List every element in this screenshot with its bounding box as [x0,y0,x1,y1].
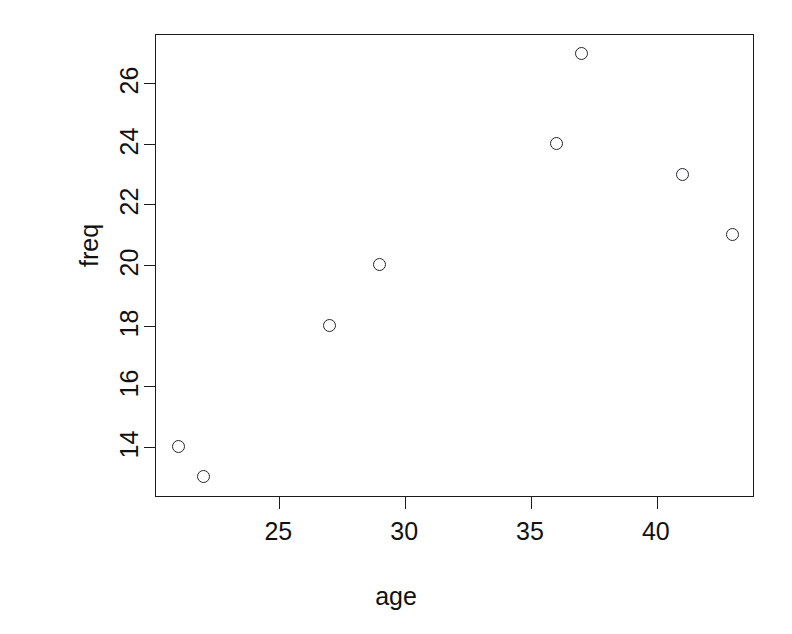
x-axis-tick [531,496,532,509]
y-axis-title-text: freq [76,224,105,267]
y-axis-tick-label-text: 22 [118,188,143,216]
data-point [172,440,185,453]
scatter-plot-figure: 14161820222426 freq age 25303540 [0,0,792,634]
data-points-layer [156,35,753,496]
y-axis-tick-label: 26 [113,68,147,93]
y-axis-tick-label-text: 14 [118,430,143,458]
y-axis-tick [144,386,156,387]
data-point [373,258,386,271]
y-axis-tick-label-text: 24 [118,128,143,156]
data-point [197,470,210,483]
y-axis-tick-label-text: 18 [118,309,143,337]
y-axis-tick [144,265,156,266]
x-axis-title: age [0,582,792,611]
data-point [676,168,689,181]
x-axis-tick-label: 40 [626,519,686,544]
x-axis-title-text: age [375,582,417,610]
x-axis-tick-label: 25 [248,519,308,544]
data-point [575,47,588,60]
data-point [323,319,336,332]
y-axis-tick-label: 24 [113,129,147,154]
plot-area [155,34,754,497]
data-point [726,228,739,241]
y-axis-tick-label: 16 [113,371,147,396]
x-axis-tick [405,496,406,509]
x-axis-tick [657,496,658,509]
x-axis-tick [279,496,280,509]
y-axis-tick-label-text: 26 [118,67,143,95]
x-axis-tick-label: 35 [500,519,560,544]
y-axis-title: freq [30,231,150,260]
data-point [550,137,563,150]
x-axis-tick-label: 30 [374,519,434,544]
y-axis-tick-label: 22 [113,189,147,214]
y-axis-tick-label: 14 [113,432,147,457]
y-axis-tick [144,204,156,205]
y-axis-tick-label-text: 16 [118,370,143,398]
y-axis-tick [144,326,156,327]
y-axis-tick [144,144,156,145]
y-axis-tick [144,83,156,84]
y-axis-tick [144,447,156,448]
y-axis-tick-label: 18 [113,311,147,336]
